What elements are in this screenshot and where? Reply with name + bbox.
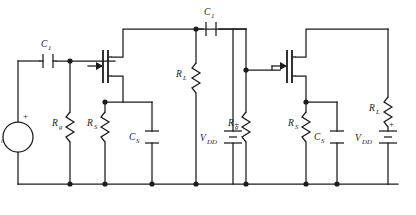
m1-source-wire xyxy=(112,76,123,102)
rs1-label-subscript: S xyxy=(94,123,98,130)
circuit-diagram: + v i C 1 R g xyxy=(0,0,416,215)
load-resistor-stage1: R L xyxy=(175,63,200,93)
input-voltage-source: + v i xyxy=(0,111,33,152)
vdd2-label-symbol: V xyxy=(355,133,362,143)
supply-battery-stage2: + V DD xyxy=(355,119,397,145)
vdd1-label-symbol: V xyxy=(200,133,207,143)
m2-drain-wire xyxy=(296,29,388,57)
rs2-label-subscript: S xyxy=(295,123,299,130)
junction-dot xyxy=(102,99,107,104)
input-cap-label-subscript: 1 xyxy=(48,44,51,51)
rs1-label-symbol: R xyxy=(86,118,93,128)
cs1-label-subscript: S xyxy=(136,137,140,144)
source-label-subscript: i xyxy=(1,137,3,144)
rl2-label-symbol: R xyxy=(368,103,375,113)
input-cap-label-symbol: C xyxy=(41,39,48,49)
source-bypass-capacitor-stage2: C S xyxy=(314,131,344,144)
vdd1-label-subscript: DD xyxy=(206,138,217,145)
rl2-label-subscript: L xyxy=(375,108,380,115)
rs2-label-symbol: R xyxy=(287,118,294,128)
mosfet-stage2 xyxy=(272,50,296,83)
rg1-label-symbol: R xyxy=(51,118,58,128)
schematic-canvas: + v i C 1 R g xyxy=(0,0,416,215)
gate-resistor-stage1: R g xyxy=(51,112,74,142)
source-bypass-capacitor-stage1: C S xyxy=(129,131,159,144)
junction-dot xyxy=(149,181,154,186)
vdd2-label-subscript: DD xyxy=(361,138,372,145)
stage2-gate-feed-wire xyxy=(246,29,280,70)
source-resistor-stage1: R S xyxy=(86,112,109,142)
interstage-cap-label-subscript: 1 xyxy=(211,12,214,19)
cs1-label-symbol: C xyxy=(129,132,136,142)
junction-dot xyxy=(102,181,107,186)
vdd2-polarity-plus: + xyxy=(389,119,394,129)
rl1-label-symbol: R xyxy=(175,69,182,79)
input-coupling-capacitor: C 1 xyxy=(40,39,56,68)
source-polarity-plus: + xyxy=(23,111,28,121)
source-resistor-stage2: R S xyxy=(287,112,310,142)
rg2-label-subscript: g xyxy=(235,123,239,130)
m2-source-wire xyxy=(296,76,306,102)
junction-dot xyxy=(243,67,248,72)
junction-dot xyxy=(193,181,198,186)
rg2-label-symbol: R xyxy=(227,118,234,128)
interstage-coupling-capacitor: C 1 xyxy=(204,7,216,36)
rg1-label-subscript: g xyxy=(59,123,63,130)
cs2-label-subscript: S xyxy=(321,137,325,144)
junction-dot xyxy=(67,181,72,186)
interstage-cap-label-symbol: C xyxy=(204,7,211,17)
junction-dot xyxy=(334,181,339,186)
junction-dot xyxy=(67,58,72,63)
m1-drain-wire xyxy=(112,29,246,57)
wire-network xyxy=(18,29,398,184)
junction-dot xyxy=(243,181,248,186)
mosfet-stage1 xyxy=(88,50,112,83)
junction-dot xyxy=(303,181,308,186)
cs2-label-symbol: C xyxy=(314,132,321,142)
junction-dot xyxy=(303,99,308,104)
junction-dot xyxy=(193,26,198,31)
rl1-label-subscript: L xyxy=(182,74,187,81)
